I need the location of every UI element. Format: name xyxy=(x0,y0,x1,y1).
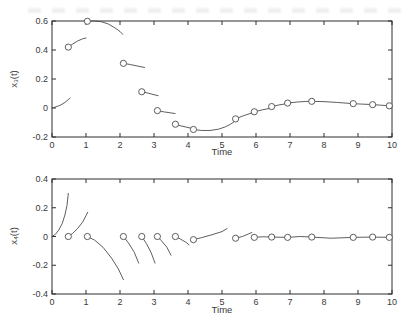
x-tick-label: 1 xyxy=(83,140,88,150)
trajectory-segment xyxy=(87,237,123,280)
trajectory-segment xyxy=(193,122,233,131)
trajectory-segment xyxy=(193,229,227,240)
y-tick-label: 0.4 xyxy=(35,45,48,55)
data-point-marker xyxy=(350,101,356,107)
y-tick-label: -0.2 xyxy=(32,132,48,142)
x-axis-label-bottom: Time xyxy=(212,304,233,315)
x-axis-label-top: Time xyxy=(212,146,233,157)
x-tick-label: 10 xyxy=(387,297,397,307)
data-point-marker xyxy=(386,234,392,240)
y-tick-label: -0.4 xyxy=(32,289,48,299)
x-tick-label: 7 xyxy=(287,140,292,150)
data-point-marker xyxy=(309,98,315,104)
data-point-marker xyxy=(269,234,275,240)
x-tick-label: 6 xyxy=(253,140,258,150)
y-tick-label: -0.2 xyxy=(32,260,48,270)
x-tick-label: 10 xyxy=(387,140,397,150)
trajectory-segment xyxy=(68,212,87,236)
data-point-marker xyxy=(84,18,90,24)
x-tick-label: 0 xyxy=(49,297,54,307)
data-point-marker xyxy=(65,233,71,239)
data-point-marker xyxy=(154,108,160,114)
y-tick-label: 0.4 xyxy=(35,174,48,184)
y-axis-label-x3: x₃(t) xyxy=(8,70,19,88)
x-tick-label: 1 xyxy=(83,297,88,307)
data-point-marker xyxy=(172,121,178,127)
data-point-marker xyxy=(139,89,145,95)
figure: 012345678910-0.200.20.40.6012345678910-0… xyxy=(0,0,415,330)
x-tick-label: 0 xyxy=(49,140,54,150)
x-tick-label: 8 xyxy=(321,297,326,307)
y-tick-label: 0.2 xyxy=(35,74,48,84)
data-point-marker xyxy=(350,234,356,240)
data-point-marker xyxy=(251,109,257,115)
x-tick-label: 9 xyxy=(355,297,360,307)
data-point-marker xyxy=(84,233,90,239)
data-point-marker xyxy=(190,126,196,132)
data-point-marker xyxy=(233,116,239,122)
x-tick-label: 2 xyxy=(117,140,122,150)
data-point-marker xyxy=(154,233,160,239)
y-tick-label: 0 xyxy=(43,232,48,242)
data-point-marker xyxy=(285,100,291,106)
data-point-marker xyxy=(269,103,275,109)
data-point-marker xyxy=(172,233,178,239)
x-tick-label: 6 xyxy=(253,297,258,307)
y-axis-label-x4: x₄(t) xyxy=(8,227,19,245)
x-tick-label: 9 xyxy=(355,140,360,150)
trajectory-segment xyxy=(123,237,138,264)
data-point-marker xyxy=(251,234,257,240)
x-tick-label: 2 xyxy=(117,297,122,307)
x-tick-label: 8 xyxy=(321,140,326,150)
y-tick-label: 0 xyxy=(43,103,48,113)
plot-box xyxy=(52,179,392,294)
trajectory-segment xyxy=(52,193,68,236)
data-point-marker xyxy=(65,44,71,50)
trajectory-segment xyxy=(52,98,70,108)
data-point-marker xyxy=(120,233,126,239)
x-tick-label: 7 xyxy=(287,297,292,307)
y-tick-label: 0.2 xyxy=(35,203,48,213)
subplot-2: 012345678910-0.4-0.200.20.4 xyxy=(32,174,397,307)
x-tick-label: 3 xyxy=(151,297,156,307)
trajectory-segment xyxy=(142,237,155,264)
plot-box xyxy=(52,21,392,137)
data-point-marker xyxy=(120,60,126,66)
plots-svg: 012345678910-0.200.20.40.6012345678910-0… xyxy=(0,0,415,330)
data-point-marker xyxy=(370,102,376,108)
trajectory-segment xyxy=(312,101,351,103)
data-point-marker xyxy=(285,234,291,240)
subplot-1: 012345678910-0.200.20.40.6 xyxy=(32,16,397,150)
data-point-marker xyxy=(190,237,196,243)
data-point-marker xyxy=(386,103,392,109)
trajectory-segment xyxy=(87,21,122,34)
data-point-marker xyxy=(139,233,145,239)
x-tick-label: 4 xyxy=(185,297,190,307)
data-point-marker xyxy=(370,234,376,240)
x-tick-label: 4 xyxy=(185,140,190,150)
y-tick-label: 0.6 xyxy=(35,16,48,26)
data-point-marker xyxy=(309,234,315,240)
x-tick-label: 3 xyxy=(151,140,156,150)
data-point-marker xyxy=(233,235,239,241)
